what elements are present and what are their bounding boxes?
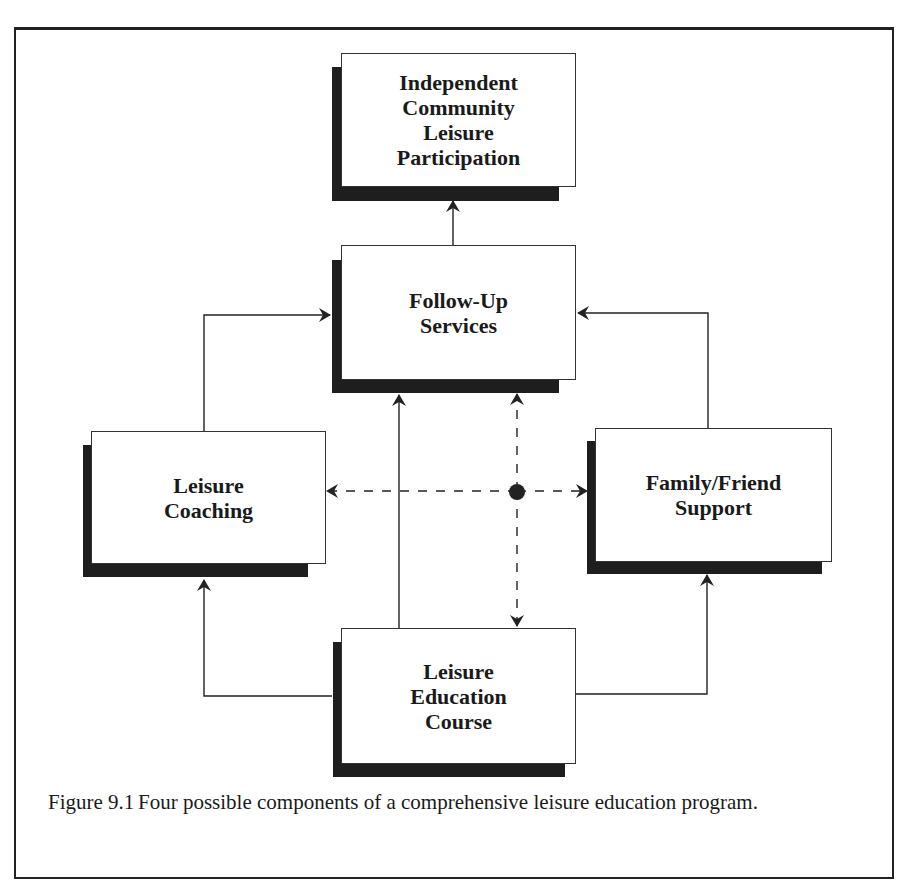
box-label: Follow-Up Services <box>409 288 508 338</box>
arrow-education-to-family <box>575 575 707 694</box>
caption-text: Four possible components of a comprehens… <box>138 786 848 818</box>
box-family-friend-support: Family/Friend Support <box>595 428 832 562</box>
box-independent-participation: Independent Community Leisure Participat… <box>341 53 576 187</box>
arrow-education-to-coaching <box>204 580 332 696</box>
arrow-family-to-followup <box>578 313 708 428</box>
box-label: Leisure Education Course <box>410 659 507 734</box>
figure-caption: Figure 9.1 Four possible components of a… <box>48 786 848 818</box>
box-leisure-coaching: Leisure Coaching <box>91 431 326 564</box>
box-follow-up-services: Follow-Up Services <box>341 245 576 380</box>
box-label: Leisure Coaching <box>164 473 253 523</box>
hub-dot <box>509 484 525 500</box>
box-leisure-education-course: Leisure Education Course <box>341 628 576 764</box>
caption-number: Figure 9.1 <box>48 786 138 818</box>
box-label: Independent Community Leisure Participat… <box>397 70 520 170</box>
box-label: Family/Friend Support <box>646 470 782 520</box>
arrow-coaching-to-followup <box>204 315 330 431</box>
